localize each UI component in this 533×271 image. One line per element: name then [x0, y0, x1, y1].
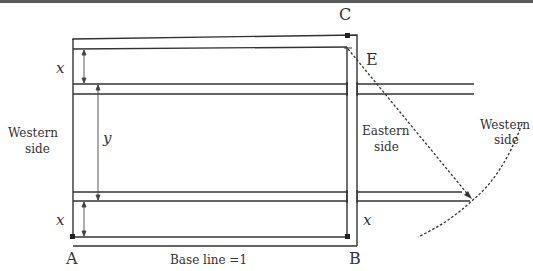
- top-inner-line: [73, 47, 347, 49]
- point-a-marker: [70, 234, 75, 239]
- label-western-side-left-1: Western: [8, 126, 58, 140]
- label-x-right: x: [363, 211, 372, 229]
- top-outer-line: [73, 35, 357, 246]
- label-western-side-right-1: Western: [480, 118, 530, 132]
- label-x-bottom: x: [56, 211, 65, 229]
- label-western-side-right-2: side: [494, 133, 519, 147]
- sight-line-arrowhead: [464, 191, 472, 199]
- sight-line-dashed: [348, 49, 470, 197]
- label-base-line: Base line =1: [170, 253, 247, 267]
- label-c: C: [339, 5, 351, 24]
- point-b-marker: [345, 234, 350, 239]
- point-c-marker: [345, 33, 350, 38]
- label-b: B: [349, 249, 361, 268]
- label-eastern-side-1: Eastern: [362, 124, 410, 138]
- label-e: E: [366, 50, 378, 69]
- label-y: y: [102, 129, 112, 147]
- label-eastern-side-2: side: [374, 140, 399, 154]
- label-western-side-left-2: side: [25, 142, 50, 156]
- diagram-canvas: C E A B x y x x Western side Eastern sid…: [0, 0, 533, 271]
- label-x-top: x: [56, 59, 65, 77]
- label-a: A: [65, 249, 78, 268]
